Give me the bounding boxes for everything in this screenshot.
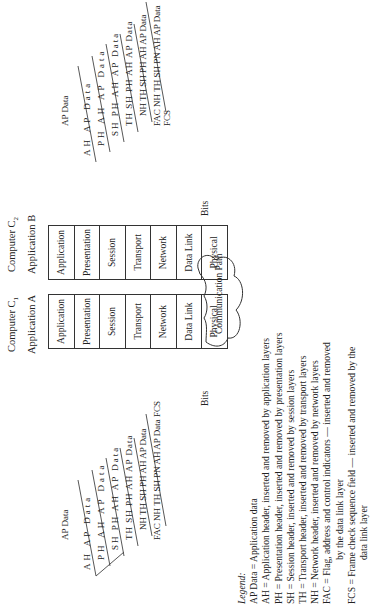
encap-row-4: TH SH PH AH AP Data — [124, 21, 134, 126]
ap-data-top: AP Data — [60, 510, 70, 540]
encap-row-2: PH AH AP Data — [96, 463, 106, 560]
encap-row-6: FAC NH TH SH PN AH AP Data FCS — [152, 0, 172, 126]
encap-row-3: SH PH AH AP Data — [110, 32, 120, 136]
encap-row-6: FAC NH TH SH PN AH AP Data FCS — [152, 401, 162, 540]
legend-item: PH = Presentation header, inserted and r… — [273, 333, 285, 604]
legend-item: FAC = Flag, address and control indicato… — [321, 333, 333, 604]
encap-row-1: AH AP Data — [82, 81, 92, 156]
legend-item: AH = Application header, inserted and re… — [260, 333, 272, 604]
encap-row-5: NH TH SH PH AH AP Data — [138, 428, 148, 530]
encap-row-4: TH SH PH AH AP Data — [124, 435, 134, 540]
encap-row-2: PH AH AP Data — [96, 49, 106, 146]
legend-item: NH = Network header, inserted and remove… — [309, 333, 321, 604]
legend-item: AP Data = Application data — [248, 333, 260, 604]
bits-label-left: Bits — [200, 391, 210, 406]
legend-item-continued: data link layer — [358, 333, 370, 604]
encap-row-3: SH PH AH AP Data — [110, 446, 120, 550]
legend-item: TH = Transport header, inserted and remo… — [297, 333, 309, 604]
legend-item: SH = Session header, inserted and remove… — [285, 333, 297, 604]
communication-path-label: Communication Path — [214, 254, 224, 334]
legend-title: Legend: — [236, 333, 248, 604]
legend: Legend: AP Data = Application data AH = … — [236, 333, 370, 604]
encap-row-1: AH AP Data — [82, 495, 92, 570]
bits-label-right: Bits — [200, 201, 210, 216]
legend-item: FCS = Frame check sequence field — inser… — [346, 333, 358, 604]
legend-item-continued: by the data link layer — [334, 333, 346, 604]
encap-row-5: NH TH SH PH AH AP Data — [138, 14, 148, 116]
ap-data-top: AP Data — [60, 96, 70, 126]
